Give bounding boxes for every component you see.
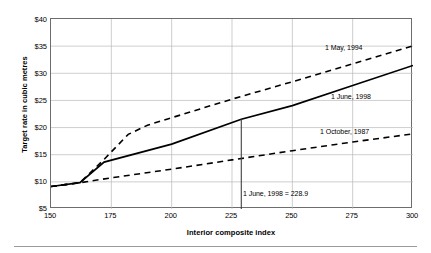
annotation-marker-value: 1 June, 1998 = 228.9: [243, 190, 308, 197]
annotation-1-may-1994: 1 May, 1994: [325, 44, 362, 51]
x-tick-label: 150: [30, 211, 70, 220]
annotation-1-october-1987: 1 October, 1987: [320, 128, 369, 135]
y-axis-title: Target rate in cubic metres: [20, 25, 29, 185]
x-tick-label: 275: [332, 211, 372, 220]
x-tick-label: 300: [392, 211, 431, 220]
y-tick-label: $40: [0, 15, 47, 24]
x-tick-label: 200: [151, 211, 191, 220]
x-tick-label: 250: [271, 211, 311, 220]
footer-divider: [14, 246, 417, 247]
vertical-gridlines: [111, 19, 352, 209]
x-tick-label: 175: [90, 211, 130, 220]
x-tick-label: 225: [211, 211, 251, 220]
x-axis-title: Interior composite index: [50, 228, 412, 237]
chart-figure: $40 $35 $30 $25 $20 $15 $10 $5 150 175 2…: [0, 0, 431, 253]
annotation-1-june-1998: 1 June, 1998: [331, 93, 371, 100]
